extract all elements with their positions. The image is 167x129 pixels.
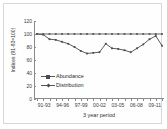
x-tick-label: 94-96 [56, 102, 69, 108]
y-tick-label: 80 [18, 45, 32, 50]
y-tick-label: 0 [18, 97, 32, 102]
x-tick-mark [137, 99, 138, 101]
x-tick-mark [118, 99, 119, 101]
x-axis-title: 3 year period [34, 112, 164, 119]
x-tick-mark [162, 99, 163, 101]
x-tick-label: 91-93 [38, 102, 51, 108]
data-point [130, 51, 132, 53]
x-tick-mark [81, 99, 82, 101]
data-point [92, 52, 94, 54]
data-point [42, 33, 44, 35]
legend-line-marker-icon [41, 73, 55, 80]
data-point [80, 50, 82, 52]
data-point [55, 33, 57, 35]
x-tick-mark [93, 99, 94, 101]
data-point [105, 43, 107, 45]
y-tick-mark [34, 60, 36, 61]
data-point [149, 33, 151, 35]
data-point [149, 38, 151, 40]
data-point [124, 33, 126, 35]
data-point [117, 33, 119, 35]
y-axis-ticks: 020406080100120 [18, 21, 32, 99]
x-tick-mark [56, 99, 57, 101]
y-tick-label: 20 [18, 84, 32, 89]
data-point [61, 33, 63, 35]
x-tick-label: 03-05 [112, 102, 125, 108]
data-point [36, 33, 38, 35]
data-point [136, 47, 138, 49]
data-point [86, 33, 88, 35]
x-tick-label: 00-02 [93, 102, 106, 108]
data-point [74, 46, 76, 48]
data-point [136, 33, 138, 35]
y-tick-mark [34, 34, 36, 35]
data-point [74, 33, 76, 35]
data-point [155, 35, 157, 37]
data-point [130, 33, 132, 35]
x-tick-mark [50, 99, 51, 101]
x-tick-label: 09-11 [149, 102, 161, 108]
data-point [117, 48, 119, 50]
legend-item-abundance: Abundance [41, 72, 101, 81]
y-tick-mark [34, 86, 36, 87]
legend-label: Abundance [55, 73, 84, 80]
data-point [142, 33, 144, 35]
chart-screenshot: 020406080100120 Indices (91-93=100) 3 ye… [0, 0, 167, 129]
data-point [142, 44, 144, 46]
x-tick-mark [43, 99, 44, 101]
x-tick-mark [106, 99, 107, 101]
y-tick-mark [34, 99, 36, 100]
legend-label: Distribution [55, 82, 84, 89]
data-point [92, 33, 94, 35]
data-point [61, 41, 63, 43]
chart-card: 020406080100120 Indices (91-93=100) 3 ye… [3, 3, 162, 124]
data-point [55, 39, 57, 41]
y-axis-title: Indices (91-93=100) [10, 19, 16, 81]
x-tick-label: 97-99 [75, 102, 88, 108]
data-point [99, 51, 101, 53]
data-point [67, 43, 69, 45]
y-tick-label: 100 [18, 32, 32, 37]
data-point [86, 53, 88, 55]
x-tick-mark [100, 99, 101, 101]
legend-line-marker-icon [41, 82, 55, 89]
data-point [111, 33, 113, 35]
data-point [105, 33, 107, 35]
y-tick-label: 120 [18, 19, 32, 24]
x-tick-mark [75, 99, 76, 101]
data-point [49, 33, 51, 35]
legend-item-distribution: Distribution [41, 81, 101, 90]
x-tick-label: 06-08 [130, 102, 143, 108]
chart-legend: Abundance Distribution [41, 72, 101, 90]
data-point [161, 33, 163, 35]
x-tick-mark [143, 99, 144, 101]
x-tick-mark [150, 99, 151, 101]
x-tick-mark [125, 99, 126, 101]
x-tick-mark [112, 99, 113, 101]
y-tick-mark [34, 47, 36, 48]
y-tick-mark [34, 73, 36, 74]
x-tick-mark [68, 99, 69, 101]
data-point [124, 49, 126, 51]
data-point [80, 33, 82, 35]
x-tick-mark [37, 99, 38, 101]
y-tick-label: 40 [18, 71, 32, 76]
x-tick-mark [87, 99, 88, 101]
x-tick-mark [62, 99, 63, 101]
y-tick-mark [34, 21, 36, 22]
x-tick-mark [131, 99, 132, 101]
data-point [155, 33, 157, 35]
y-tick-label: 60 [18, 58, 32, 63]
data-point [67, 33, 69, 35]
x-tick-mark [156, 99, 157, 101]
data-point [99, 33, 101, 35]
data-point [111, 47, 113, 49]
data-point [49, 38, 51, 40]
data-point [161, 45, 163, 47]
